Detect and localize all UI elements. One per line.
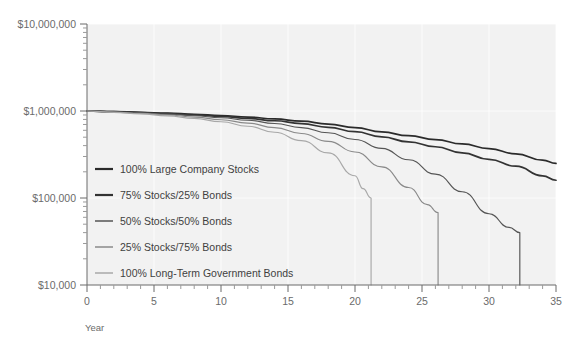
y-tick-label: $100,000 — [32, 192, 76, 204]
x-tick-label: 30 — [483, 295, 495, 307]
legend-label-0: 100% Large Company Stocks — [120, 163, 259, 175]
x-tick-label: 15 — [282, 295, 294, 307]
y-tick-label: $10,000,000 — [18, 18, 77, 30]
chart-container: $10,000,000$1,000,000$100,000$10,000 051… — [0, 0, 569, 353]
y-tick-label: $10,000 — [38, 279, 76, 291]
y-tick-label: $1,000,000 — [23, 105, 76, 117]
x-axis-labels: 05101520253035 — [84, 295, 562, 307]
y-axis-ticks — [80, 24, 87, 285]
x-axis-title-group: Year — [85, 322, 104, 333]
x-axis-title: Year — [85, 322, 104, 333]
legend-label-2: 50% Stocks/50% Bonds — [120, 215, 232, 227]
portfolio-depletion-chart: $10,000,000$1,000,000$100,000$10,000 051… — [0, 0, 569, 353]
legend-label-1: 75% Stocks/25% Bonds — [120, 189, 232, 201]
x-tick-label: 20 — [349, 295, 361, 307]
x-tick-label: 10 — [215, 295, 227, 307]
x-axis-ticks — [87, 285, 556, 292]
legend-label-3: 25% Stocks/75% Bonds — [120, 241, 232, 253]
x-tick-label: 35 — [550, 295, 562, 307]
x-tick-label: 5 — [151, 295, 157, 307]
y-axis-labels: $10,000,000$1,000,000$100,000$10,000 — [18, 18, 77, 291]
x-tick-label: 25 — [416, 295, 428, 307]
x-tick-label: 0 — [84, 295, 90, 307]
legend-label-4: 100% Long-Term Government Bonds — [120, 267, 293, 279]
